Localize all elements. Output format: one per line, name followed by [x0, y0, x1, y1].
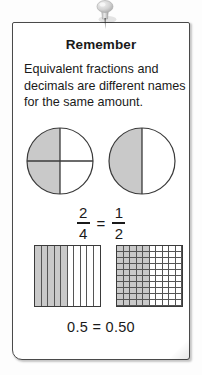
denominator: 4: [79, 225, 87, 241]
fraction-equation: 2 4 = 1 2: [13, 205, 189, 241]
two-fourths-circle: [26, 127, 94, 195]
fraction-bar: [77, 222, 90, 223]
hundredths-grid: [116, 245, 183, 307]
grid-cell: [94, 246, 101, 306]
page-background: Remember Equivalent fractions and decima…: [0, 0, 202, 375]
equals-sign: =: [97, 215, 106, 232]
grid-cell: [176, 300, 183, 306]
fraction-two-fourths: 2 4: [77, 205, 90, 241]
fraction-bar: [112, 222, 125, 223]
body-line-3: for the same amount.: [24, 94, 181, 111]
body-text: Equivalent fractions and decimals are di…: [24, 61, 181, 111]
circle-models: [13, 127, 189, 201]
body-line-2: decimals are different names: [24, 78, 181, 95]
numerator: 1: [115, 205, 123, 221]
page-title: Remember: [13, 37, 189, 52]
fraction-one-half: 1 2: [112, 205, 125, 241]
grid-models: [13, 245, 189, 309]
tenths-grid: [34, 245, 101, 307]
decimal-equation: 0.5 = 0.50: [13, 319, 189, 335]
numerator: 2: [79, 205, 87, 221]
remember-card: Remember Equivalent fractions and decima…: [12, 22, 190, 360]
pushpin-icon: [88, 0, 122, 33]
denominator: 2: [115, 225, 123, 241]
page-curl: [164, 334, 190, 360]
body-line-1: Equivalent fractions and: [24, 61, 181, 78]
one-half-circle: [108, 127, 176, 195]
